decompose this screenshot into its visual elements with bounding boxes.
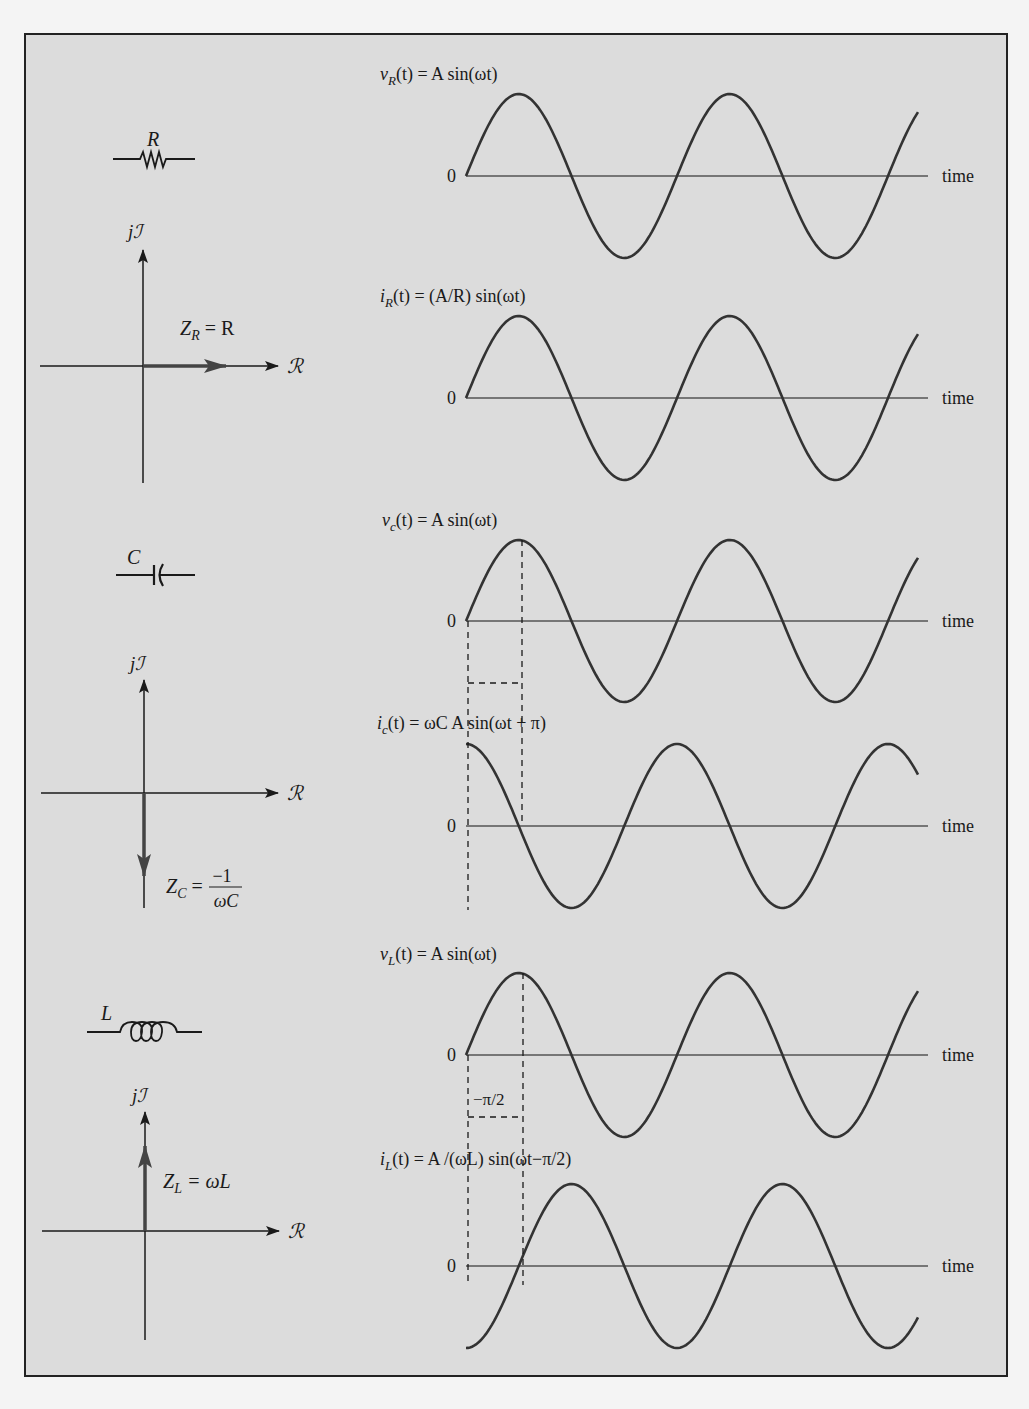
time-label: time [942, 1045, 974, 1065]
zero-label: 0 [447, 166, 456, 186]
real-axis-label: ℛ [287, 782, 305, 804]
real-axis-label: ℛ [288, 1220, 306, 1242]
time-label: time [942, 816, 974, 836]
imag-axis-label: jℐ [129, 1085, 149, 1106]
time-label: time [942, 611, 974, 631]
svg-text:ωC: ωC [214, 891, 240, 911]
time-label: time [942, 388, 974, 408]
phase-shift-label: −π/2 [473, 1090, 504, 1109]
imag-axis-label: jℐ [125, 221, 145, 242]
zero-label: 0 [447, 611, 456, 631]
svg-text:−1: −1 [212, 866, 231, 886]
rlc-phasor-figure: R jℐ ℛ ZR = R C jℐ ℛ ZC = −1 ωC L [0, 0, 1029, 1409]
zero-label: 0 [447, 816, 456, 836]
time-label: time [942, 1256, 974, 1276]
imag-axis-label: jℐ [127, 653, 147, 674]
real-axis-label: ℛ [287, 355, 305, 377]
time-label: time [942, 166, 974, 186]
zero-label: 0 [447, 1256, 456, 1276]
capacitor-label: C [127, 546, 141, 568]
zero-label: 0 [447, 388, 456, 408]
zero-label: 0 [447, 1045, 456, 1065]
resistor-label: R [146, 128, 159, 150]
inductor-label: L [100, 1002, 112, 1024]
